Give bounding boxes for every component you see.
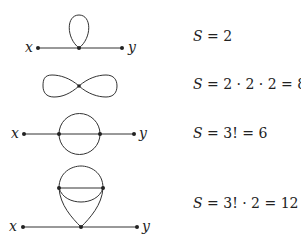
label-y: y [139, 126, 147, 140]
figure-eight-diagram [43, 75, 117, 97]
expression: = 2 · 2 · 2 = 8 [203, 76, 301, 92]
tadpole-diagram [36, 15, 124, 50]
expression: = 2 [203, 28, 233, 44]
external-point-y [132, 132, 136, 136]
symbol: S [193, 125, 203, 141]
symbol: S [193, 76, 203, 92]
label-y: y [142, 219, 150, 233]
external-point-y [135, 225, 139, 229]
vertex [77, 84, 81, 88]
symmetry-factor-2: S = 2 · 2 · 2 = 8 [193, 77, 301, 91]
feynman-diagram-figure: x y x y x y S = 2 S = 2 · 2 · 2 = 8 S = … [0, 0, 301, 242]
expression: = 3! = 6 [203, 125, 268, 141]
sunset-diagram [22, 114, 136, 155]
expression: = 3! · 2 = 12 [203, 195, 299, 211]
label-x: x [11, 126, 19, 140]
tadpole-loop [69, 15, 89, 48]
vertex-bottom [79, 225, 83, 229]
vertex-left [57, 132, 61, 136]
symbol: S [193, 28, 203, 44]
label-x: x [9, 219, 17, 233]
external-point-x [36, 46, 40, 50]
label-y: y [128, 40, 136, 54]
vertex [77, 46, 81, 50]
double-scoop-diagram [21, 166, 139, 229]
external-point-y [120, 46, 124, 50]
upper-arc [59, 166, 103, 188]
external-point-x [22, 132, 26, 136]
external-point-x [21, 225, 25, 229]
symbol: S [193, 195, 203, 211]
symmetry-factor-3: S = 3! = 6 [193, 126, 267, 140]
vertex-right [101, 186, 105, 190]
lower-arc [59, 188, 103, 202]
symmetry-factor-4: S = 3! · 2 = 12 [193, 196, 298, 210]
left-loop [43, 75, 79, 97]
vertex-left [57, 186, 61, 190]
right-loop [79, 75, 117, 97]
label-x: x [25, 40, 33, 54]
symmetry-factor-1: S = 2 [193, 29, 232, 43]
vertex-right [98, 132, 102, 136]
